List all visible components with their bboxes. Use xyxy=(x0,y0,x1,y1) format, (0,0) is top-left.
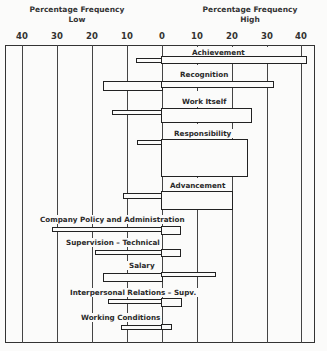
x-tick-label: 30 xyxy=(51,31,63,41)
bar-low-salary xyxy=(103,273,163,282)
factor-label-salary: Salary xyxy=(127,261,157,270)
x-tick-label: 10 xyxy=(191,31,203,41)
factor-label-recognition: Recognition xyxy=(178,70,230,79)
left-header-line1: Percentage Frequency xyxy=(22,5,132,15)
factor-label-responsibility: Responsibility xyxy=(172,129,233,138)
bar-high-advancement xyxy=(161,191,233,210)
bar-low-advancement xyxy=(123,193,163,199)
right-header-line1: Percentage Frequency xyxy=(195,5,305,15)
x-tick-label: 40 xyxy=(16,31,28,41)
left-header-line2: Low xyxy=(22,15,132,25)
bar-high-responsibility xyxy=(161,139,248,177)
x-tick-label: 0 xyxy=(159,31,165,41)
bar-high-supervision-technical xyxy=(161,249,181,257)
factor-label-work-itself: Work Itself xyxy=(180,97,228,106)
gridline xyxy=(22,45,23,343)
bar-high-working-conditions xyxy=(161,324,172,330)
factor-label-company-policy: Company Policy and Administration xyxy=(38,215,187,224)
bar-low-supervision-technical xyxy=(95,250,163,255)
bar-high-work-itself xyxy=(161,108,252,123)
bar-low-company-policy xyxy=(52,227,163,232)
gridline xyxy=(301,45,302,343)
left-header: Percentage Frequency Low xyxy=(22,5,132,25)
factor-label-advancement: Advancement xyxy=(168,181,227,190)
x-tick-label: 20 xyxy=(86,31,98,41)
x-tick-label: 10 xyxy=(121,31,133,41)
right-header-line2: High xyxy=(195,15,305,25)
bar-high-achievement xyxy=(161,56,307,64)
bar-low-responsibility xyxy=(137,140,163,145)
factor-label-supervision-technical: Supervision – Technical xyxy=(64,238,162,247)
gridline xyxy=(267,45,268,343)
gridline xyxy=(92,45,93,343)
x-tick-label: 20 xyxy=(226,31,238,41)
bar-low-recognition xyxy=(103,81,163,91)
x-tick-label: 30 xyxy=(261,31,273,41)
factor-label-working-conditions: Working Conditions xyxy=(79,313,162,322)
bar-high-interpersonal-relations xyxy=(161,298,182,307)
right-header: Percentage Frequency High xyxy=(195,5,305,25)
bar-high-salary xyxy=(161,272,216,277)
x-tick-label: 40 xyxy=(295,31,307,41)
factor-label-interpersonal-relations: Interpersonal Relations – Supv. xyxy=(68,288,198,297)
bar-high-recognition xyxy=(161,81,274,88)
bar-high-company-policy xyxy=(161,226,181,235)
bar-low-working-conditions xyxy=(121,325,163,330)
bar-low-work-itself xyxy=(112,110,163,115)
bar-low-achievement xyxy=(136,58,163,63)
gridline xyxy=(57,45,58,343)
bar-low-interpersonal-relations xyxy=(108,299,163,304)
